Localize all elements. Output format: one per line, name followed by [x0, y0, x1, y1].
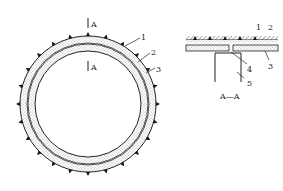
callout-2: 2: [151, 48, 156, 57]
slab-left: [186, 45, 229, 51]
section-view: 1 2 3 4 5 A—A: [186, 23, 278, 101]
section-callout-5: 5: [247, 79, 252, 88]
callout-3: 3: [156, 65, 161, 74]
thin-layer: [186, 40, 278, 43]
leader-s4: [231, 52, 247, 64]
section-callout-3: 3: [268, 62, 273, 71]
rib-member: [215, 53, 241, 82]
section-label-bottom: A: [90, 63, 97, 72]
callout-1: 1: [141, 33, 146, 42]
section-callout-1: 1: [256, 23, 261, 32]
leader-s3: [265, 51, 269, 60]
leader-1: [125, 38, 140, 46]
ring-cross-section: A A 1 2 3: [16, 18, 161, 176]
section-callout-4: 4: [247, 65, 252, 74]
slab-right: [233, 45, 278, 51]
section-callout-2: 2: [268, 23, 273, 32]
leader-2: [138, 53, 150, 62]
section-label-top: A: [90, 20, 97, 29]
hatched-surface: [186, 36, 278, 40]
section-caption: A—A: [219, 92, 240, 101]
diagram-canvas: A A 1 2 3 1 2 3: [0, 0, 283, 191]
